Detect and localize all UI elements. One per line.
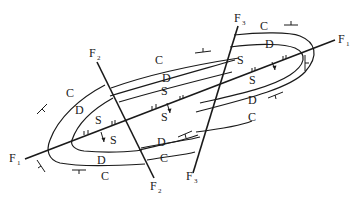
svg-text:S: S	[161, 110, 168, 124]
svg-text:C: C	[160, 151, 168, 165]
svg-text:1: 1	[17, 159, 21, 167]
svg-text:3: 3	[242, 19, 246, 27]
label-f1-left: F 1	[9, 151, 21, 167]
svg-text:1: 1	[346, 40, 350, 48]
svg-text:F: F	[234, 11, 241, 25]
svg-text:F: F	[338, 32, 345, 46]
svg-text:2: 2	[97, 54, 101, 62]
fault-f3	[193, 26, 238, 173]
svg-text:F: F	[150, 179, 157, 193]
svg-text:S: S	[95, 113, 102, 127]
svg-text:F: F	[89, 46, 96, 60]
svg-text:C: C	[260, 19, 268, 33]
svg-text:D: D	[157, 135, 166, 149]
svg-text:3: 3	[194, 177, 198, 185]
svg-text:S: S	[237, 53, 244, 67]
svg-text:D: D	[162, 71, 171, 85]
svg-text:D: D	[97, 153, 106, 167]
svg-text:C: C	[66, 86, 74, 100]
svg-text:C: C	[101, 169, 109, 183]
middle-block-lines	[110, 60, 235, 150]
svg-text:F: F	[186, 169, 193, 183]
svg-text:C: C	[155, 53, 163, 67]
strata-labels: C D S S C D S S D C D C C D S S D C	[66, 19, 274, 183]
label-f3-top: F 3	[234, 11, 246, 27]
svg-text:S: S	[161, 84, 168, 98]
svg-text:2: 2	[158, 187, 162, 195]
label-f3-bottom: F 3	[186, 169, 198, 185]
label-f2-top: F 2	[89, 46, 101, 62]
svg-text:S: S	[249, 73, 256, 87]
svg-text:D: D	[75, 103, 84, 117]
geologic-map-diagram: F 1 F 1 F 2 F 2 F 3 F 3 C D S S C D S S …	[0, 0, 360, 200]
label-f2-bottom: F 2	[150, 179, 162, 195]
svg-text:S: S	[110, 133, 117, 147]
svg-text:D: D	[248, 93, 257, 107]
svg-text:C: C	[248, 110, 256, 124]
svg-text:D: D	[265, 37, 274, 51]
svg-text:F: F	[9, 151, 16, 165]
label-f1-right: F 1	[338, 32, 350, 48]
